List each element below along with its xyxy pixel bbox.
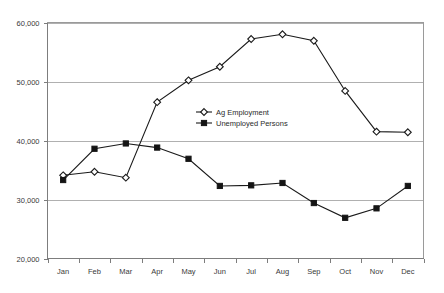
data-point-marker (91, 168, 98, 175)
data-point-marker (343, 215, 348, 220)
data-point-marker (404, 129, 411, 136)
data-point-marker (123, 141, 128, 146)
series-line (63, 143, 408, 217)
data-point-marker (374, 206, 379, 211)
y-tick-label: 60,000 (17, 19, 40, 28)
data-point-marker (310, 37, 317, 44)
x-tick-label-nov: Nov (370, 267, 384, 276)
x-axis-tick-labels: JanFebMarAprMayJunJulAugSepOctNovDec (57, 267, 415, 276)
x-tick-label-sep: Sep (307, 267, 320, 276)
chart-legend: Ag EmploymentUnemployed Persons (196, 108, 288, 128)
series-line (63, 34, 408, 177)
y-axis-tick-labels: 20,00030,00040,00050,00060,000 (17, 19, 40, 264)
legend-item-ag-employment[interactable]: Ag Employment (196, 108, 270, 117)
series-unemployed-persons (61, 141, 411, 221)
data-point-marker (201, 109, 208, 116)
data-point-marker (154, 99, 161, 106)
data-point-marker (155, 145, 160, 150)
plot-area-border (48, 23, 424, 259)
data-point-marker (311, 200, 316, 205)
x-tick-label-apr: Apr (151, 267, 163, 276)
y-axis-tick-marks (44, 24, 48, 260)
data-point-marker (201, 120, 206, 125)
x-tick-label-dec: Dec (401, 267, 415, 276)
chart-container: 20,00030,00040,00050,00060,000 JanFebMar… (0, 0, 444, 293)
x-tick-label-oct: Oct (339, 267, 352, 276)
data-point-marker (186, 156, 191, 161)
data-point-marker (280, 180, 285, 185)
x-tick-label-aug: Aug (276, 267, 289, 276)
data-point-marker (217, 183, 222, 188)
line-chart: 20,00030,00040,00050,00060,000 JanFebMar… (0, 0, 444, 293)
data-point-marker (122, 174, 129, 181)
data-point-marker (92, 146, 97, 151)
y-tick-label: 50,000 (17, 78, 40, 87)
x-tick-label-jun: Jun (214, 267, 226, 276)
x-tick-label-feb: Feb (88, 267, 101, 276)
y-tick-label: 20,000 (17, 255, 40, 264)
series-ag-employment (60, 31, 411, 181)
legend-item-unemployed-persons[interactable]: Unemployed Persons (196, 119, 288, 128)
x-tick-label-jan: Jan (57, 267, 69, 276)
x-tick-label-jul: Jul (246, 267, 256, 276)
y-tick-label: 40,000 (17, 137, 40, 146)
legend-label: Ag Employment (216, 108, 270, 117)
data-point-marker (249, 183, 254, 188)
data-point-marker (405, 183, 410, 188)
data-point-marker (279, 31, 286, 38)
x-tick-label-may: May (181, 267, 195, 276)
legend-label: Unemployed Persons (216, 119, 288, 128)
x-tick-label-mar: Mar (119, 267, 132, 276)
y-tick-label: 30,000 (17, 196, 40, 205)
data-point-marker (61, 177, 66, 182)
x-axis-tick-marks (49, 259, 425, 263)
